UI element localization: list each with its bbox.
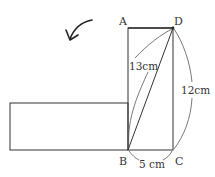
label-D: D (174, 15, 183, 28)
geometry-diagram: A D B C 13cm 12cm 5 cm (0, 0, 215, 177)
curved-arrow-icon (66, 20, 92, 40)
dimension-arc-12cm-bottom (174, 98, 192, 149)
label-A: A (118, 15, 128, 28)
measurement-5cm: 5 cm (139, 158, 165, 170)
dimension-arc-13cm (129, 72, 148, 148)
rotated-rectangle (10, 103, 128, 150)
diagonal-BD (128, 28, 173, 150)
label-B: B (119, 155, 127, 168)
dimension-arc-12cm (174, 29, 192, 82)
dimension-arc-13cm-top (135, 29, 172, 58)
dimension-arc-5cm-left (129, 151, 139, 160)
measurement-13cm: 13cm (129, 60, 158, 72)
label-C: C (175, 155, 183, 168)
measurement-12cm: 12cm (181, 84, 210, 96)
